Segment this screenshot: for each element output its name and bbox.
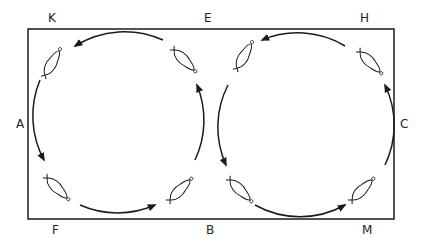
figure-icon [231,38,257,73]
arena-rectangle [28,29,394,219]
figure-icon [164,174,195,205]
label-m: M [362,224,372,236]
figure-icon [39,45,65,80]
label-b: B [206,224,214,236]
label-c: C [400,118,408,130]
figure-icon [354,46,385,77]
label-k: K [48,12,56,24]
diagram-canvas [0,0,422,248]
label-f: F [52,224,59,236]
figure-icon [41,172,72,203]
label-h: H [360,12,369,24]
label-e: E [204,12,212,24]
figure-icon [224,174,255,205]
figure-icon [346,174,377,205]
figure-icon [168,44,199,75]
label-a: A [16,118,24,130]
